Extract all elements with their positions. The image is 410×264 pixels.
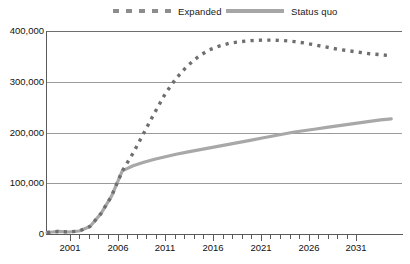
series-line-status-quo — [47, 119, 391, 233]
series-line-expanded — [47, 40, 391, 232]
chart-plot-area — [0, 0, 410, 264]
chart-container: Expanded Status quo 400,000 300,000 200,… — [0, 0, 410, 264]
